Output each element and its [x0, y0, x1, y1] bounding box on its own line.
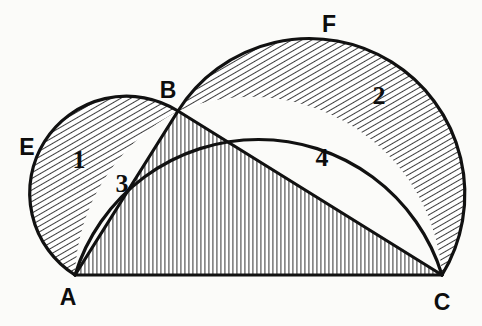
geometry-figure: A B C E F 1 2 3 4	[0, 0, 482, 326]
point-label-B: B	[160, 77, 177, 103]
point-label-E: E	[19, 134, 34, 160]
region-label-4: 4	[316, 143, 329, 172]
figure-canvas: A B C E F 1 2 3 4	[0, 0, 482, 326]
point-label-A: A	[60, 284, 77, 310]
region-label-1: 1	[73, 145, 86, 174]
region-label-3: 3	[116, 169, 129, 198]
point-label-C: C	[434, 289, 451, 315]
region-label-2: 2	[373, 81, 386, 110]
point-label-F: F	[322, 11, 336, 37]
